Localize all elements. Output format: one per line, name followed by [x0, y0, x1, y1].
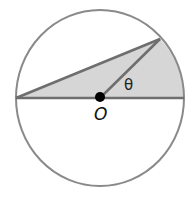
center-point [95, 92, 105, 102]
angle-label: θ [124, 76, 133, 94]
shaded-region [16, 39, 184, 98]
circle-diagram: θ O [0, 0, 193, 198]
center-label: O [94, 104, 107, 124]
